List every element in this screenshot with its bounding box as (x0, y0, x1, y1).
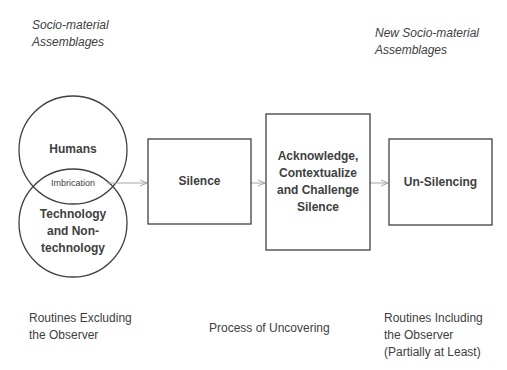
label-line: Silence (178, 173, 220, 190)
routines-excluding-label: Routines Excluding the Observer (29, 310, 132, 344)
label-line: Un-Silencing (404, 174, 477, 191)
un-silencing-label: Un-Silencing (389, 139, 492, 225)
label-line: Assemblages (32, 34, 109, 51)
label-line: and Non- (23, 223, 123, 240)
label-line: Technology (23, 206, 123, 223)
routines-including-label: Routines Including the Observer (Partial… (384, 310, 483, 361)
label-line: Routines Including (384, 310, 483, 327)
label-line: Assemblages (375, 42, 479, 59)
label-line: Silence (297, 199, 339, 216)
label-line: Acknowledge, (278, 148, 359, 165)
acknowledge-label: Acknowledge, Contextualize and Challenge… (266, 114, 370, 250)
humans-label: Humans (23, 141, 123, 158)
label-line: the Observer (29, 327, 132, 344)
new-socio-material-assemblages-label: New Socio-material Assemblages (375, 25, 479, 59)
label-line: Socio-material (32, 17, 109, 34)
imbrication-label: Imbrication (23, 178, 123, 188)
label-line: technology (23, 240, 123, 257)
label-line: Routines Excluding (29, 310, 132, 327)
label-line: New Socio-material (375, 25, 479, 42)
label-line: and Challenge (277, 182, 359, 199)
silence-label: Silence (148, 139, 251, 224)
process-of-uncovering-label: Process of Uncovering (209, 320, 330, 337)
socio-material-assemblages-label: Socio-material Assemblages (32, 17, 109, 51)
label-line: (Partially at Least) (384, 344, 483, 361)
technology-label: Technology and Non- technology (23, 206, 123, 257)
label-line: Contextualize (279, 165, 357, 182)
label-line: the Observer (384, 327, 483, 344)
